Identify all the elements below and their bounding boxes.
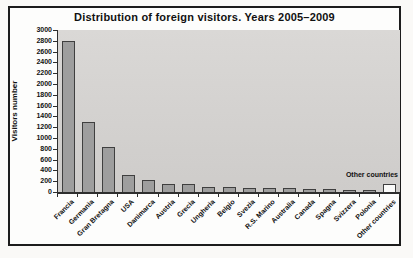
x-tick-mark — [77, 194, 78, 197]
bar-danimarca — [142, 180, 155, 192]
bar-polonia — [363, 190, 376, 192]
plot-area — [57, 30, 400, 194]
bar-ungheria — [202, 187, 215, 192]
x-tick-mark — [258, 194, 259, 197]
bar-francia — [62, 41, 75, 192]
y-tick-label: 2000 — [12, 80, 52, 88]
y-tick-label: 2400 — [12, 58, 52, 66]
y-tick-label: 400 — [12, 166, 52, 174]
chart-frame: Distribution of foreign visitors. Years … — [8, 6, 401, 246]
y-tick-label: 800 — [12, 145, 52, 153]
x-tick-mark — [238, 194, 239, 197]
y-tick-label: 2200 — [12, 69, 52, 77]
y-tick-label: 2600 — [12, 48, 52, 56]
bar-svizzera — [343, 190, 356, 192]
x-tick-mark — [97, 194, 98, 197]
bar-usa — [122, 175, 135, 192]
chart-frame-inner: Distribution of foreign visitors. Years … — [10, 8, 399, 244]
annotation-other-countries: Other countries — [346, 171, 398, 178]
x-tick-mark — [359, 194, 360, 197]
x-tick-mark — [178, 194, 179, 197]
y-tick-label: 1000 — [12, 134, 52, 142]
x-tick-mark — [218, 194, 219, 197]
y-tick-label: 0 — [12, 188, 52, 196]
y-tick-label: 1600 — [12, 102, 52, 110]
x-tick-mark — [399, 194, 400, 197]
x-tick-mark — [117, 194, 118, 197]
x-tick-mark — [319, 194, 320, 197]
x-tick-mark — [137, 194, 138, 197]
bar-grecia — [182, 184, 195, 192]
y-tick-label: 1800 — [12, 91, 52, 99]
x-tick-mark — [339, 194, 340, 197]
y-tick-label: 600 — [12, 156, 52, 164]
x-tick-mark — [158, 194, 159, 197]
x-tick-mark — [278, 194, 279, 197]
bar-svezia — [243, 188, 256, 192]
y-tick-label: 1400 — [12, 112, 52, 120]
y-tick-label: 2800 — [12, 37, 52, 45]
x-tick-mark — [198, 194, 199, 197]
chart-title: Distribution of foreign visitors. Years … — [10, 11, 399, 23]
bar-belgio — [223, 187, 236, 192]
bar-spagna — [323, 189, 336, 192]
y-tick-label: 3000 — [12, 26, 52, 34]
bar-australia — [283, 188, 296, 192]
bar-r-s-marino — [263, 188, 276, 192]
x-tick-mark — [379, 194, 380, 197]
bar-other-countries — [383, 184, 396, 192]
x-tick-mark — [57, 194, 58, 197]
x-tick-mark — [298, 194, 299, 197]
bar-canada — [303, 189, 316, 192]
y-tick-label: 1200 — [12, 123, 52, 131]
bar-germania — [82, 122, 95, 192]
bar-gran-bretagna — [102, 147, 115, 192]
bar-austria — [162, 184, 175, 192]
y-tick-label: 200 — [12, 177, 52, 185]
